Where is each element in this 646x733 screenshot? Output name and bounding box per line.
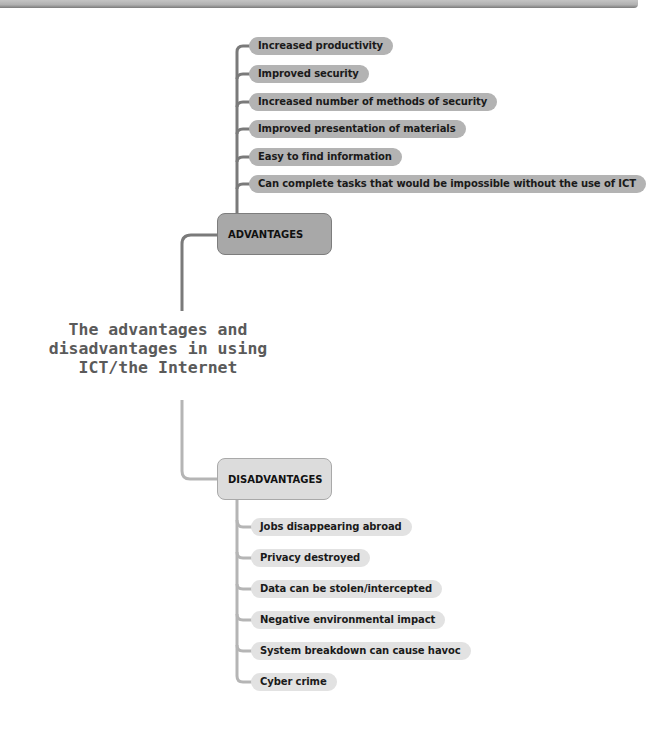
central-topic: The advantages and disadvantages in usin… <box>18 320 298 377</box>
disadvantage-item: Cyber crime <box>251 673 337 691</box>
disadvantage-item: Data can be stolen/intercepted <box>251 580 442 598</box>
advantages-label: ADVANTAGES <box>228 229 303 240</box>
disadvantage-item: System breakdown can cause havoc <box>251 642 471 660</box>
advantages-node: ADVANTAGES <box>217 213 332 255</box>
advantage-item: Improved presentation of materials <box>249 120 466 138</box>
advantage-item: Improved security <box>249 65 369 83</box>
disadvantage-item: Jobs disappearing abroad <box>251 518 412 536</box>
disadvantage-item: Privacy destroyed <box>251 549 370 567</box>
central-topic-line: disadvantages in using <box>18 339 298 358</box>
disadvantage-item: Negative environmental impact <box>251 611 445 629</box>
advantage-item: Can complete tasks that would be impossi… <box>249 175 646 193</box>
central-topic-line: ICT/the Internet <box>18 358 298 377</box>
disadvantages-label: DISADVANTAGES <box>228 474 322 485</box>
advantage-item: Increased productivity <box>249 37 393 55</box>
advantage-item: Easy to find information <box>249 148 402 166</box>
advantage-item: Increased number of methods of security <box>249 93 497 111</box>
disadvantages-node: DISADVANTAGES <box>217 458 332 500</box>
central-topic-line: The advantages and <box>18 320 298 339</box>
header-bar <box>0 0 638 8</box>
